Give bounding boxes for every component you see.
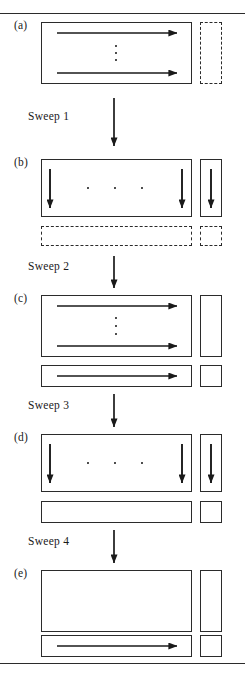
panel-e-side-box <box>200 570 222 632</box>
sweep-label-1: Sweep 1 <box>28 110 69 122</box>
panel-c-dot <box>115 325 117 327</box>
panel-a-dot <box>115 52 117 54</box>
sweep-label-3: Sweep 3 <box>28 399 69 411</box>
sweep-schedule-figure: (a) (b) (c) (d) (e) Sweep 1 Sweep 2 Swee… <box>0 0 245 678</box>
panel-b-dot <box>114 187 116 189</box>
panel-b-dot <box>87 187 89 189</box>
sweep-label-2: Sweep 2 <box>28 260 69 272</box>
panel-b-side-box <box>200 159 222 217</box>
panel-b-main-box <box>41 159 192 217</box>
panel-label-a: (a) <box>14 19 27 31</box>
panel-d-main-box <box>41 434 192 492</box>
panel-d-dot <box>141 462 143 464</box>
panel-c-dot <box>115 333 117 335</box>
panel-c-side-box <box>200 295 222 357</box>
panel-label-d: (d) <box>14 431 28 443</box>
bottom-horizontal-rule <box>0 663 245 664</box>
panel-b-bottom-small-box <box>200 226 222 246</box>
panel-d-bottom-bar <box>41 501 192 523</box>
panel-e-main-box <box>41 570 192 632</box>
panel-c-bottom-small-box <box>200 365 222 387</box>
panel-label-e: (e) <box>14 567 27 579</box>
panel-e-bottom-small-box <box>200 635 222 657</box>
panel-d-dot <box>87 462 89 464</box>
panel-e-bottom-bar <box>41 635 192 657</box>
top-horizontal-rule <box>0 13 245 14</box>
panel-d-dot <box>114 462 116 464</box>
panel-c-dot <box>115 317 117 319</box>
panel-d-bottom-small-box <box>200 501 222 523</box>
sweep-label-4: Sweep 4 <box>28 535 69 547</box>
panel-label-b: (b) <box>14 156 28 168</box>
panel-c-bottom-bar <box>41 365 192 387</box>
panel-a-dot <box>115 59 117 61</box>
panel-b-bottom-bar <box>41 226 192 246</box>
panel-a-side-box <box>200 22 222 84</box>
panel-a-dot <box>115 45 117 47</box>
panel-b-dot <box>141 187 143 189</box>
panel-d-side-box <box>200 434 222 492</box>
panel-label-c: (c) <box>14 292 27 304</box>
